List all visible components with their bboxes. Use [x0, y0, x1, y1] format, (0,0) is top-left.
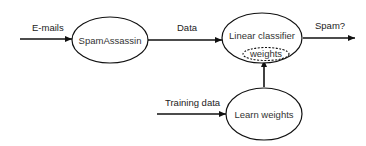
node-spamassassin: SpamAssassin: [72, 17, 148, 63]
spam-filter-diagram: E-mails Data Spam? Training data SpamAss…: [0, 0, 366, 146]
spamassassin-label: SpamAssassin: [79, 35, 142, 46]
classifier-label: Linear classifier: [229, 30, 295, 41]
edge-data: Data: [148, 22, 222, 40]
data-label: Data: [177, 22, 198, 33]
spam-label: Spam?: [315, 20, 345, 31]
training-label: Training data: [165, 97, 221, 108]
edge-training: Training data: [157, 97, 226, 114]
edge-emails: E-mails: [20, 22, 72, 39]
emails-label: E-mails: [32, 22, 64, 33]
weights-label: weights: [249, 48, 282, 59]
learn-label: Learn weights: [234, 109, 293, 120]
node-learn-weights: Learn weights: [226, 88, 302, 140]
node-linear-classifier: Linear classifier weights: [222, 13, 302, 63]
edge-spam: Spam?: [303, 20, 355, 38]
